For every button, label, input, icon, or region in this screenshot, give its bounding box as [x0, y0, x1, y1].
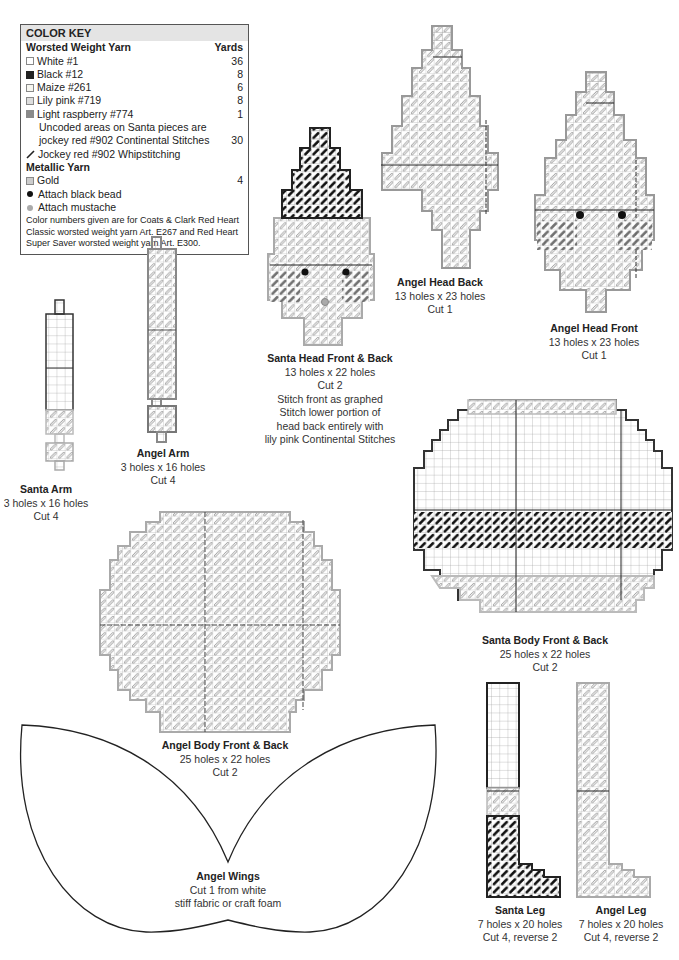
- angel-body-graph: [100, 512, 340, 732]
- angel-arm-graph: [148, 237, 176, 442]
- caption-note: lily pink Continental Stitches: [252, 433, 408, 447]
- caption-title: Santa Leg: [470, 904, 570, 918]
- caption-size: 13 holes x 22 holes: [252, 366, 408, 380]
- santa-head-caption: Santa Head Front & Back 13 holes x 22 ho…: [252, 352, 408, 447]
- santa-arm-caption: Santa Arm 3 holes x 16 holes Cut 4: [0, 483, 92, 524]
- santa-body-graph: [414, 400, 672, 612]
- caption-cut: Cut 4, reverse 2: [470, 931, 570, 945]
- santa-head-graph: [268, 128, 374, 345]
- caption-cut: Cut 4, reverse 2: [571, 931, 671, 945]
- caption-note: Stitch front as graphed: [252, 393, 408, 407]
- angel-wings-caption: Angel Wings Cut 1 from white stiff fabri…: [160, 870, 296, 911]
- caption-cut: Cut 4: [0, 510, 92, 524]
- caption-size: 3 holes x 16 holes: [110, 461, 216, 475]
- caption-title: Santa Body Front & Back: [470, 634, 620, 648]
- caption-size: 13 holes x 23 holes: [380, 290, 500, 304]
- caption-title: Angel Leg: [571, 904, 671, 918]
- caption-cut: Cut 2: [470, 661, 620, 675]
- caption-title: Santa Arm: [0, 483, 92, 497]
- caption-size: 7 holes x 20 holes: [571, 918, 671, 932]
- caption-cut: Cut 2: [252, 379, 408, 393]
- caption-size: 25 holes x 22 holes: [150, 753, 300, 767]
- caption-title: Angel Wings: [160, 870, 296, 884]
- caption-title: Angel Arm: [110, 447, 216, 461]
- caption-cut: Cut 1: [534, 349, 654, 363]
- santa-body-caption: Santa Body Front & Back 25 holes x 22 ho…: [470, 634, 620, 675]
- patterns-canvas: [0, 0, 679, 960]
- caption-note: stiff fabric or craft foam: [160, 897, 296, 911]
- caption-size: 25 holes x 22 holes: [470, 648, 620, 662]
- angel-head-back-caption: Angel Head Back 13 holes x 23 holes Cut …: [380, 276, 500, 317]
- caption-note: Stitch lower portion of: [252, 406, 408, 420]
- angel-head-front-graph: [535, 72, 654, 312]
- angel-leg-caption: Angel Leg 7 holes x 20 holes Cut 4, reve…: [571, 904, 671, 945]
- caption-size: 7 holes x 20 holes: [470, 918, 570, 932]
- angel-body-caption: Angel Body Front & Back 25 holes x 22 ho…: [150, 739, 300, 780]
- caption-cut: Cut 1: [380, 303, 500, 317]
- caption-cut: Cut 4: [110, 474, 216, 488]
- angel-head-front-caption: Angel Head Front 13 holes x 23 holes Cut…: [534, 322, 654, 363]
- santa-leg-graph: [487, 683, 560, 897]
- caption-note: Cut 1 from white: [160, 884, 296, 898]
- santa-arm-graph: [46, 300, 73, 470]
- caption-cut: Cut 2: [150, 766, 300, 780]
- caption-title: Angel Head Back: [380, 276, 500, 290]
- caption-size: 3 holes x 16 holes: [0, 497, 92, 511]
- angel-head-back-graph: [381, 26, 498, 268]
- santa-leg-caption: Santa Leg 7 holes x 20 holes Cut 4, reve…: [470, 904, 570, 945]
- caption-size: 13 holes x 23 holes: [534, 336, 654, 350]
- angel-arm-caption: Angel Arm 3 holes x 16 holes Cut 4: [110, 447, 216, 488]
- angel-leg-graph: [577, 683, 650, 897]
- caption-title: Angel Body Front & Back: [150, 739, 300, 753]
- caption-title: Santa Head Front & Back: [252, 352, 408, 366]
- caption-title: Angel Head Front: [534, 322, 654, 336]
- caption-note: head back entirely with: [252, 420, 408, 434]
